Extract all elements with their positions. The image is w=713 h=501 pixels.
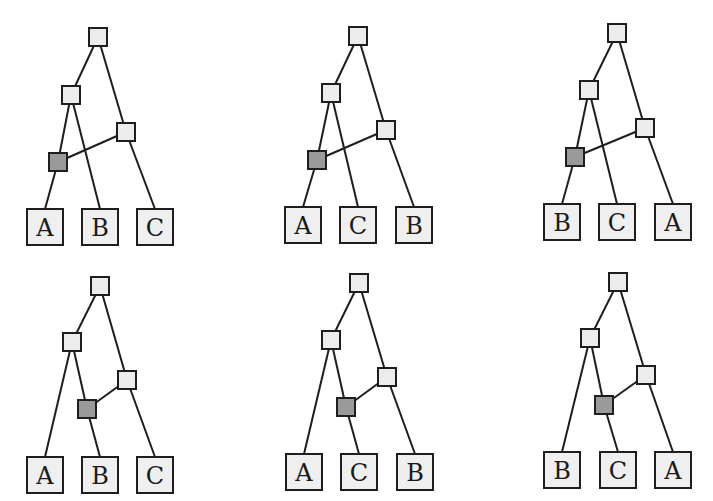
leaf-label: A <box>35 462 54 490</box>
leaf-label: B <box>91 462 109 490</box>
network-panel-4: ABC <box>27 277 173 493</box>
edge-mid-hybrid <box>575 90 589 157</box>
leaf-label: A <box>663 209 682 237</box>
tree-node <box>118 371 136 389</box>
edge-right-leaf <box>646 375 673 452</box>
reticulation-node <box>308 151 326 169</box>
leaf-label: A <box>293 212 312 240</box>
edge-right-leaf <box>126 132 155 209</box>
tree-node <box>62 86 80 104</box>
edge-mid-leaf <box>331 93 358 207</box>
edge-root-right <box>618 282 646 375</box>
tree-node <box>322 84 340 102</box>
tree-node <box>322 331 340 349</box>
edge-mid-hybrid <box>58 95 71 162</box>
leaf-label: C <box>146 214 164 242</box>
root-node <box>350 274 368 292</box>
edge-mid-leaf <box>71 95 100 209</box>
leaf-label: C <box>146 462 164 490</box>
tree-node <box>117 123 135 141</box>
edge-root-right <box>617 33 645 128</box>
network-panel-5: ACB <box>286 274 433 490</box>
reticulation-edge <box>575 128 645 157</box>
reticulation-node <box>566 148 584 166</box>
leaf-label: C <box>349 212 367 240</box>
edge-mid-hybrid <box>72 342 87 409</box>
edge-root-right <box>100 286 127 380</box>
leaf-label: B <box>553 457 571 485</box>
leaf-label: A <box>35 214 54 242</box>
tree-node <box>581 329 599 347</box>
edge-right-leaf <box>127 380 155 457</box>
edge-mid-leaf <box>589 90 617 204</box>
reticulation-node <box>78 400 96 418</box>
network-panel-6: BCA <box>544 273 691 488</box>
reticulation-edge <box>317 130 386 160</box>
root-node <box>608 24 626 42</box>
tree-node <box>637 366 655 384</box>
root-node <box>349 27 367 45</box>
leaf-label: B <box>405 212 423 240</box>
leaf-label: B <box>406 459 424 487</box>
tree-node <box>580 81 598 99</box>
leaf-label: A <box>663 457 682 485</box>
edge-right-leaf <box>386 130 414 207</box>
network-panel-2: ACB <box>285 27 432 243</box>
leaf-label: C <box>608 209 626 237</box>
edge-right-leaf <box>387 377 415 454</box>
edge-mid-hybrid <box>331 340 346 407</box>
leaf-label: B <box>553 209 571 237</box>
edge-right-leaf <box>645 128 673 204</box>
network-panel-1: ABC <box>27 28 173 245</box>
tree-node <box>377 121 395 139</box>
reticulation-node <box>49 153 67 171</box>
tree-node <box>378 368 396 386</box>
reticulation-node <box>595 396 613 414</box>
tree-node <box>636 119 654 137</box>
edge-mid-leaf <box>562 338 590 452</box>
tree-node <box>63 333 81 351</box>
edge-mid-hybrid <box>317 93 331 160</box>
phylogenetic-networks-figure: ABCACBBCAABCACBBCA <box>0 0 713 501</box>
edge-mid-leaf <box>45 342 72 457</box>
root-node <box>91 277 109 295</box>
edge-mid-hybrid <box>590 338 604 405</box>
edge-root-right <box>358 36 386 130</box>
leaf-label: A <box>294 459 313 487</box>
network-panel-3: BCA <box>544 24 691 240</box>
leaf-label: B <box>91 214 109 242</box>
edge-root-right <box>359 283 387 377</box>
root-node <box>609 273 627 291</box>
reticulation-node <box>337 398 355 416</box>
leaf-label: C <box>350 459 368 487</box>
reticulation-edge <box>58 132 126 162</box>
root-node <box>89 28 107 46</box>
leaf-label: C <box>609 457 627 485</box>
edge-root-right <box>98 37 126 132</box>
edge-mid-leaf <box>304 340 331 454</box>
